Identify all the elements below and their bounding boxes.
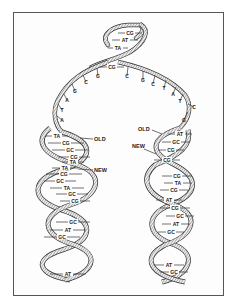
- unpaired-base: T: [178, 98, 181, 104]
- base-pair: AT: [166, 262, 172, 268]
- base-pair: AT: [177, 131, 183, 137]
- base-pair: CG: [170, 187, 178, 193]
- unpaired-base: A: [171, 91, 175, 97]
- unpaired-base: G: [96, 73, 100, 79]
- new-strand-label: NEW: [94, 167, 108, 173]
- unpaired-base: G: [141, 77, 145, 83]
- base-pair: CG: [171, 205, 179, 211]
- unpaired-base: A: [60, 117, 64, 123]
- base-pair: AT: [122, 37, 128, 43]
- base-pair: CG: [71, 198, 79, 204]
- base-pair: CG: [126, 30, 134, 36]
- base-pair: CG: [167, 147, 175, 153]
- base-pair: CG: [62, 140, 70, 146]
- base-pair: AT: [65, 227, 71, 233]
- replication-fork: [55, 62, 189, 132]
- old-strand-label: OLD: [138, 126, 150, 132]
- unpaired-base: G: [73, 88, 77, 94]
- unpaired-base: C: [125, 73, 129, 79]
- base-pair: CG: [173, 173, 181, 179]
- unpaired-base: G: [182, 117, 186, 123]
- unpaired-base: C: [84, 79, 88, 85]
- base-pair: CG: [108, 64, 116, 70]
- unpaired-base: A: [65, 97, 69, 103]
- base-pair: GC: [68, 191, 76, 197]
- base-pair: AT: [173, 221, 179, 227]
- base-pair: TA: [54, 133, 61, 139]
- base-pair: TA: [115, 45, 122, 51]
- base-pair: GC: [176, 213, 184, 219]
- unpaired-base: T: [162, 85, 165, 91]
- base-pair: TA: [175, 180, 182, 186]
- base-pair: TA: [70, 159, 77, 165]
- base-pair: GC: [69, 219, 77, 225]
- base-pair: GC: [170, 269, 178, 275]
- base-pair: AT: [166, 197, 172, 203]
- new-strand-label: NEW: [132, 143, 146, 149]
- base-pair: AT: [65, 271, 71, 277]
- unpaired-base: T: [60, 107, 63, 113]
- base-pair: CG: [60, 171, 68, 177]
- base-pair: GC: [66, 147, 74, 153]
- base-pair: GC: [167, 229, 175, 235]
- old-strand-label: OLD: [94, 136, 106, 142]
- base-pair: CG: [163, 157, 171, 163]
- unpaired-base: C: [151, 81, 155, 87]
- base-pair: GC: [172, 139, 180, 145]
- dna-replication-diagram: CGATTACGGCGATACGCTATCGTACGGCCGTATACGGCTA…: [0, 0, 235, 308]
- base-pair: GC: [58, 234, 66, 240]
- unpaired-base: C: [192, 104, 196, 110]
- base-pair: GC: [56, 178, 64, 184]
